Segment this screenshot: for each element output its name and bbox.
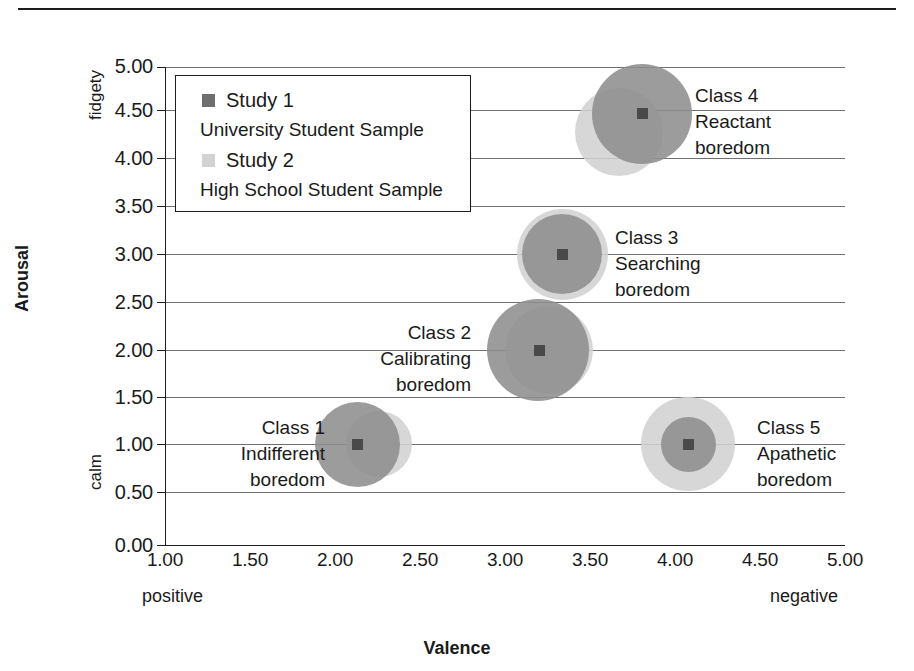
gridline-2-50 xyxy=(165,302,845,303)
marker-class2 xyxy=(534,345,545,356)
x-tick-label-2-50: 2.50 xyxy=(385,549,455,571)
gridline-1-50 xyxy=(165,397,845,398)
legend-entry-study2: Study 2 xyxy=(176,146,470,174)
annotation-class2-title: Class 2 xyxy=(291,320,471,346)
y-tick-label-1-00: 1.00 xyxy=(93,433,153,456)
x-tick-label-3-00: 3.00 xyxy=(470,549,540,571)
x-tick-label-1-00: 1.00 xyxy=(130,549,200,571)
x-tick-label-4-50: 4.50 xyxy=(725,549,795,571)
annotation-class3-line2: boredom xyxy=(615,277,701,303)
marker-class3 xyxy=(557,249,568,260)
y-tick-label-4-00: 4.00 xyxy=(93,147,153,170)
y-axis-title: Arousal xyxy=(12,219,33,339)
top-divider-rule xyxy=(18,8,896,10)
y-tick-0-00 xyxy=(157,545,165,546)
annotation-class1: Class 1 Indifferent boredom xyxy=(145,415,325,493)
marker-class5 xyxy=(683,439,694,450)
y-tick-3-50 xyxy=(157,206,165,207)
x-tick-label-5-00: 5.00 xyxy=(810,549,880,571)
x-axis-title: Valence xyxy=(0,638,914,659)
y-tick-label-1-50: 1.50 xyxy=(93,386,153,409)
y-tick-5-00 xyxy=(157,67,165,68)
legend-desc-study2: High School Student Sample xyxy=(176,174,470,206)
annotation-class1-title: Class 1 xyxy=(145,415,325,441)
legend-swatch-study1-icon xyxy=(202,94,215,107)
marker-class4 xyxy=(637,108,648,119)
y-anchor-fidgety: fidgety xyxy=(86,70,106,120)
annotation-class5-title: Class 5 xyxy=(757,415,836,441)
y-anchor-calm: calm xyxy=(86,454,106,490)
x-axis-spine xyxy=(165,545,845,546)
y-tick-1-50 xyxy=(157,397,165,398)
x-tick-label-1-50: 1.50 xyxy=(215,549,285,571)
legend-entry-study1: Study 1 xyxy=(176,86,470,114)
annotation-class2: Class 2 Calibrating boredom xyxy=(291,320,471,398)
y-tick-label-3-50: 3.50 xyxy=(93,195,153,218)
x-anchor-positive: positive xyxy=(142,586,203,607)
x-anchor-negative: negative xyxy=(770,586,838,607)
legend-label-study2: Study 2 xyxy=(226,149,294,172)
marker-class1 xyxy=(352,439,363,450)
x-tick-label-4-00: 4.00 xyxy=(640,549,710,571)
legend-swatch-study2-icon xyxy=(202,154,215,167)
y-tick-4-00 xyxy=(157,158,165,159)
annotation-class4-line1: Reactant xyxy=(695,109,771,135)
y-tick-label-2-50: 2.50 xyxy=(93,291,153,314)
legend-desc-study1: University Student Sample xyxy=(176,114,470,146)
y-tick-2-00 xyxy=(157,350,165,351)
annotation-class4-title: Class 4 xyxy=(695,83,771,109)
y-tick-label-3-00: 3.00 xyxy=(93,243,153,266)
y-tick-label-2-00: 2.00 xyxy=(93,339,153,362)
gridline-5-00 xyxy=(165,67,845,68)
x-tick-label-3-50: 3.50 xyxy=(555,549,625,571)
annotation-class3-title: Class 3 xyxy=(615,225,701,251)
legend-label-study1: Study 1 xyxy=(226,89,294,112)
annotation-class4-line2: boredom xyxy=(695,135,771,161)
annotation-class2-line1: Calibrating xyxy=(291,346,471,372)
bubble-chart-figure: 5.00 4.50 4.00 3.50 3.00 2.50 2.00 1.50 … xyxy=(0,0,914,671)
annotation-class4: Class 4 Reactant boredom xyxy=(695,83,771,161)
gridline-3-00 xyxy=(165,254,845,255)
y-tick-2-50 xyxy=(157,302,165,303)
annotation-class1-line2: boredom xyxy=(145,467,325,493)
annotation-class5-line2: boredom xyxy=(757,467,836,493)
x-tick-label-2-00: 2.00 xyxy=(300,549,370,571)
y-tick-3-00 xyxy=(157,254,165,255)
annotation-class3: Class 3 Searching boredom xyxy=(615,225,701,303)
annotation-class3-line1: Searching xyxy=(615,251,701,277)
annotation-class5-line1: Apathetic xyxy=(757,441,836,467)
y-tick-4-50 xyxy=(157,110,165,111)
annotation-class2-line2: boredom xyxy=(291,372,471,398)
annotation-class1-line1: Indifferent xyxy=(145,441,325,467)
annotation-class5: Class 5 Apathetic boredom xyxy=(757,415,836,493)
chart-legend: Study 1 University Student Sample Study … xyxy=(175,75,471,212)
